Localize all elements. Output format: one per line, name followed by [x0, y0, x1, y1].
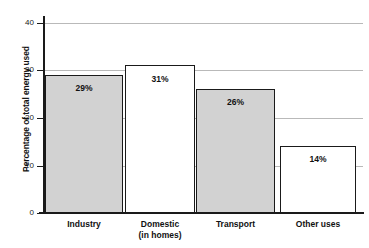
- y-tick-mark-30: [37, 70, 44, 71]
- x-category-text-other-uses: Other uses: [296, 219, 340, 229]
- bar-domestic: 31%: [125, 65, 195, 213]
- plot-area: 29% 31% 26% 14%: [45, 23, 363, 213]
- bar-value-transport: 26%: [197, 97, 274, 107]
- gridline-30: [45, 70, 363, 71]
- y-tick-label-0: 0: [12, 209, 34, 217]
- x-category-label-industry: Industry: [45, 219, 123, 230]
- y-tick-mark-40: [37, 23, 44, 24]
- gridline-40: [45, 23, 363, 24]
- bar-other-uses: 14%: [280, 146, 356, 213]
- x-category-label-other-uses: Other uses: [280, 219, 356, 230]
- bar-transport: 26%: [196, 89, 275, 213]
- x-category-sub-domestic: (in homes): [125, 230, 195, 241]
- y-tick-mark-20: [37, 118, 44, 119]
- bar-value-domestic: 31%: [126, 74, 194, 84]
- x-axis-line: [39, 212, 364, 214]
- y-tick-mark-0: [37, 213, 44, 214]
- bar-value-industry: 29%: [46, 83, 122, 93]
- x-category-text-industry: Industry: [67, 219, 101, 229]
- x-category-label-domestic: Domestic (in homes): [125, 219, 195, 241]
- bar-industry: 29%: [45, 75, 123, 213]
- bar-value-other-uses: 14%: [281, 154, 355, 164]
- y-axis-title: Percentage of total energy used: [21, 14, 31, 204]
- bar-chart-energy-use: 29% 31% 26% 14% 40 30 20 10 0 Percentage…: [0, 0, 369, 248]
- y-axis-line: [43, 16, 45, 214]
- x-category-label-transport: Transport: [196, 219, 275, 230]
- x-category-text-domestic: Domestic: [141, 219, 179, 229]
- x-category-text-transport: Transport: [216, 219, 255, 229]
- y-tick-mark-10: [37, 166, 44, 167]
